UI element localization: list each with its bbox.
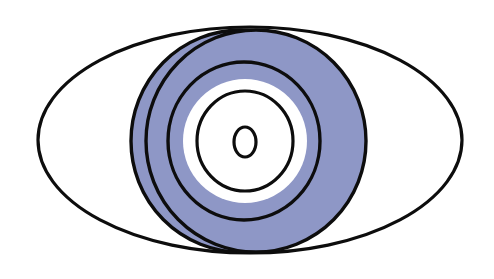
eye-diagram (0, 0, 494, 279)
pupil (234, 127, 256, 157)
eye-diagram-svg (0, 0, 494, 279)
